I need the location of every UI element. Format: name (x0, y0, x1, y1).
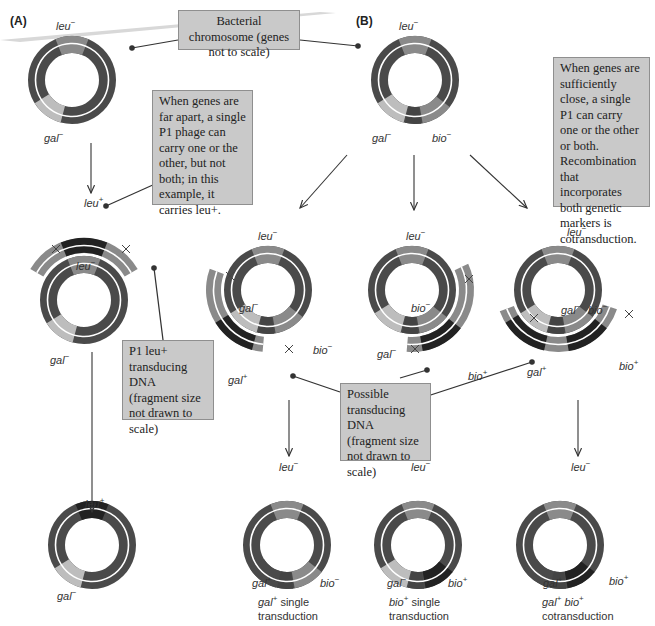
gene-label: gal+ (543, 575, 562, 589)
gene-name: gal (543, 577, 558, 589)
gene-label: gal− (561, 302, 580, 316)
caption-gal-single: gal+ single transduction (258, 592, 318, 623)
allele-superscript: − (91, 258, 96, 267)
gene-label: bio+ (609, 573, 628, 587)
strand-separator (231, 253, 304, 326)
strand-separator (382, 508, 455, 581)
gene-label: bio+ (448, 575, 467, 589)
gene-name: bio (609, 575, 624, 587)
gene-label: leu− (411, 459, 430, 473)
allele-superscript: − (402, 575, 407, 584)
gene-name: leu (85, 498, 100, 510)
allele-superscript: + (558, 575, 563, 584)
strand-separator (48, 263, 121, 336)
allele-superscript: + (99, 195, 104, 204)
allele-superscript: − (586, 459, 591, 468)
allele-superscript: − (294, 459, 299, 468)
gene-label: leu− (279, 459, 298, 473)
caption-sup: + (557, 594, 562, 603)
gene-label: gal+ (252, 575, 271, 589)
caption-bio-single: bio+ single transduction (389, 592, 449, 623)
caption-text: single (408, 596, 440, 608)
allele-superscript: − (254, 300, 259, 309)
allele-superscript: − (576, 302, 581, 311)
gene-label: bio+ (468, 368, 487, 382)
gene-label: gal− (377, 346, 396, 360)
gene-name: leu (411, 461, 426, 473)
allele-superscript: + (267, 575, 272, 584)
panel-label-b: (B) (356, 14, 373, 28)
gene-name: leu (567, 226, 582, 238)
gene-label: bio− (432, 130, 451, 144)
allele-superscript: + (243, 372, 248, 381)
allele-superscript: − (65, 352, 70, 361)
allele-superscript: − (426, 300, 431, 309)
gene-label: leu− (571, 459, 590, 473)
strand-separator (36, 43, 109, 116)
gene-label: gal+ (527, 364, 546, 378)
allele-superscript: − (387, 130, 392, 139)
caption-text: cotransduction (542, 610, 614, 622)
allele-superscript: + (100, 496, 105, 505)
allele-superscript: − (447, 130, 452, 139)
gene-name: bio (588, 304, 603, 316)
gene-name: bio (448, 577, 463, 589)
allele-superscript: + (624, 573, 629, 582)
gene-name: leu (406, 230, 421, 242)
caption-gene: gal (542, 596, 557, 608)
allele-superscript: + (542, 364, 547, 373)
strand-separator (250, 508, 323, 581)
gene-label: bio− (313, 342, 332, 356)
allele-superscript: − (72, 588, 77, 597)
gene-label: gal− (239, 300, 258, 314)
caption-cotransduction: gal+ bio+ cotransduction (542, 592, 614, 623)
strand-separator (524, 508, 597, 581)
callout-far-apart: When genes are far apart, a single P1 ph… (152, 90, 253, 205)
crossover-icon (122, 245, 130, 253)
caption-sup: + (579, 594, 584, 603)
callout-bacterial-chromosome: Bacterial chromosome (genes not to scale… (178, 10, 300, 50)
gene-label: gal− (372, 130, 391, 144)
allele-superscript: − (414, 18, 419, 27)
allele-superscript: − (273, 228, 278, 237)
gene-name: gal (561, 304, 576, 316)
gene-name: gal (377, 348, 392, 360)
gene-name: gal (527, 366, 542, 378)
gene-name: leu (56, 20, 71, 32)
strand-separator (522, 253, 595, 326)
gene-label: gal− (44, 130, 63, 144)
gene-label: bio− (588, 302, 607, 316)
gene-label: gal+ (228, 372, 247, 386)
panel-label-a: (A) (10, 14, 27, 28)
gene-label: bio− (411, 300, 430, 314)
allele-superscript: + (463, 575, 468, 584)
callout-p1-leu-transducing: P1 leu+ transducing DNA (fragment size n… (122, 340, 214, 420)
gene-name: gal (239, 302, 254, 314)
caption-gene: gal (258, 596, 273, 608)
gene-label: gal− (50, 352, 69, 366)
gene-name: bio (432, 132, 447, 144)
gene-label: bio− (320, 575, 339, 589)
allele-superscript: − (59, 130, 64, 139)
gene-name: gal (372, 132, 387, 144)
cotransduction-diagram: (A) (B) Bacterial chromosome (genes not … (0, 0, 655, 626)
strand-separator (376, 253, 449, 326)
allele-superscript: − (603, 302, 608, 311)
caption-text: transduction (258, 610, 318, 622)
gene-name: gal (252, 577, 267, 589)
callout-sufficiently-close: When genes are sufficiently close, a sin… (553, 57, 650, 207)
gene-name: bio (468, 370, 483, 382)
crossover-icon (625, 310, 633, 318)
gene-label: leu+ (85, 496, 104, 510)
callout-far-apart-text: When genes are far apart, a single P1 ph… (159, 94, 246, 217)
gene-name: leu (279, 461, 294, 473)
caption-text: single (277, 596, 309, 608)
gene-label: leu− (76, 258, 95, 272)
allele-superscript: − (328, 342, 333, 351)
gene-name: bio (411, 302, 426, 314)
gene-name: gal (228, 374, 243, 386)
gene-name: bio (320, 577, 335, 589)
gene-name: leu (84, 197, 99, 209)
gene-label: leu− (406, 228, 425, 242)
caption-text: transduction (389, 610, 449, 622)
